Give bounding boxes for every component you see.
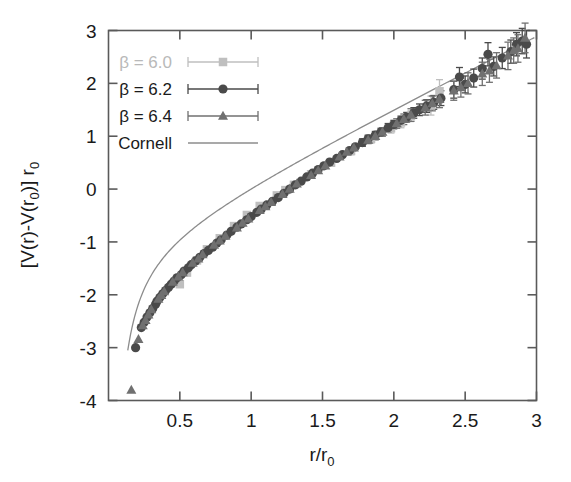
x-tick-label: 1.5 [309, 410, 335, 431]
x-tick-label: 2 [389, 410, 400, 431]
y-tick-label: -4 [80, 391, 97, 412]
chart-figure: 3210-1-2-3-4 0.511.522.53 r/r0 [V(r)-V(r… [0, 0, 571, 482]
legend-label: β = 6.0 [119, 53, 172, 72]
y-tick-label: 2 [86, 73, 97, 94]
data-point-circle [483, 50, 492, 59]
x-tick-label: 0.5 [167, 410, 193, 431]
data-point-circle [131, 343, 140, 352]
data-point-circle [469, 73, 478, 82]
legend-label: Cornell [118, 134, 172, 153]
y-tick-label: -3 [80, 338, 97, 359]
data-point-square [219, 58, 228, 67]
x-tick-label: 3 [531, 410, 542, 431]
potential-scatter-chart: 3210-1-2-3-4 0.511.522.53 r/r0 [V(r)-V(r… [0, 0, 571, 482]
y-tick-label: -1 [80, 232, 97, 253]
x-tick-label: 2.5 [452, 410, 478, 431]
y-tick-label: 1 [86, 126, 97, 147]
legend-label: β = 6.2 [119, 80, 172, 99]
data-point-circle [455, 72, 464, 81]
data-point-circle [218, 84, 227, 93]
y-tick-label: 0 [86, 179, 97, 200]
y-tick-label: -2 [80, 285, 97, 306]
legend-label: β = 6.4 [119, 107, 172, 126]
y-tick-label: 3 [86, 21, 97, 42]
x-tick-label: 1 [246, 410, 257, 431]
